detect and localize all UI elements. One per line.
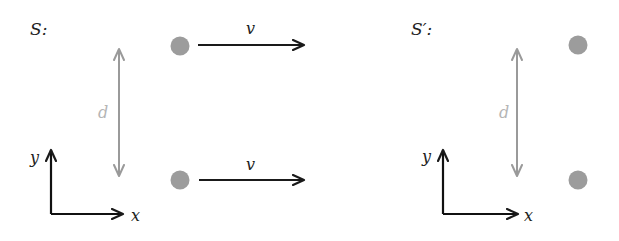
velocity-label-bottom: v (246, 155, 255, 174)
y-axis-label: y (29, 148, 40, 167)
frame-s-label: S: (30, 19, 47, 39)
x-axis-label: x (131, 206, 140, 225)
x-axis-label: x (524, 206, 533, 225)
distance-label: d (98, 103, 108, 122)
distance-label: d (499, 103, 509, 122)
particle-bottom (569, 171, 588, 190)
particle-top (171, 37, 190, 56)
frame-s-prime: S′: d y x (411, 19, 588, 225)
particle-top (569, 36, 588, 55)
frame-s: S: d y x v v (29, 19, 304, 225)
particle-bottom (171, 171, 190, 190)
velocity-label-top: v (246, 19, 255, 38)
y-axis-label: y (421, 147, 432, 166)
reference-frames-diagram: S: d y x v v S′: d y x (0, 0, 619, 241)
frame-s-prime-label: S′: (411, 19, 432, 39)
